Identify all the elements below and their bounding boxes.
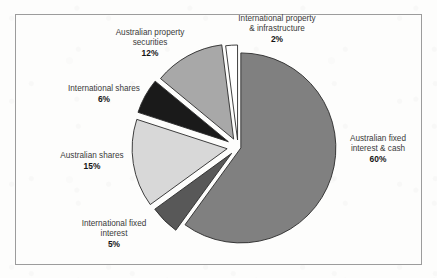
label-value: 15%	[84, 161, 101, 171]
label-line-1: International property	[238, 14, 316, 23]
label-line-1: International fixed	[82, 219, 147, 228]
label-value: 12%	[142, 48, 159, 58]
label-line-1: Australian shares	[60, 151, 123, 160]
label-value: 5%	[108, 239, 121, 249]
label-value: 6%	[98, 94, 111, 104]
label-australian-property-securities: Australian property securities 12%	[116, 28, 186, 58]
pie-chart-figure: International property & infrastructure …	[0, 0, 437, 278]
label-line-2: interest & cash	[351, 144, 406, 153]
label-australian-shares: Australian shares 15%	[60, 151, 123, 171]
label-line-1: Australian property	[116, 28, 186, 37]
label-line-2: interest	[101, 229, 129, 238]
label-international-property-infrastructure: International property & infrastructure …	[238, 14, 316, 44]
label-line-1: International shares	[68, 84, 140, 93]
label-line-2: & infrastructure	[249, 24, 305, 33]
label-line-1: Australian fixed	[350, 134, 406, 143]
label-international-shares: International shares 6%	[68, 84, 140, 104]
label-value: 2%	[271, 34, 284, 44]
label-line-2: securities	[133, 38, 168, 47]
label-international-fixed-interest: International fixed interest 5%	[82, 219, 147, 249]
label-value: 60%	[370, 154, 387, 164]
page-background: International property & infrastructure …	[0, 0, 437, 278]
label-australian-fixed-interest-cash: Australian fixed interest & cash 60%	[350, 134, 406, 164]
